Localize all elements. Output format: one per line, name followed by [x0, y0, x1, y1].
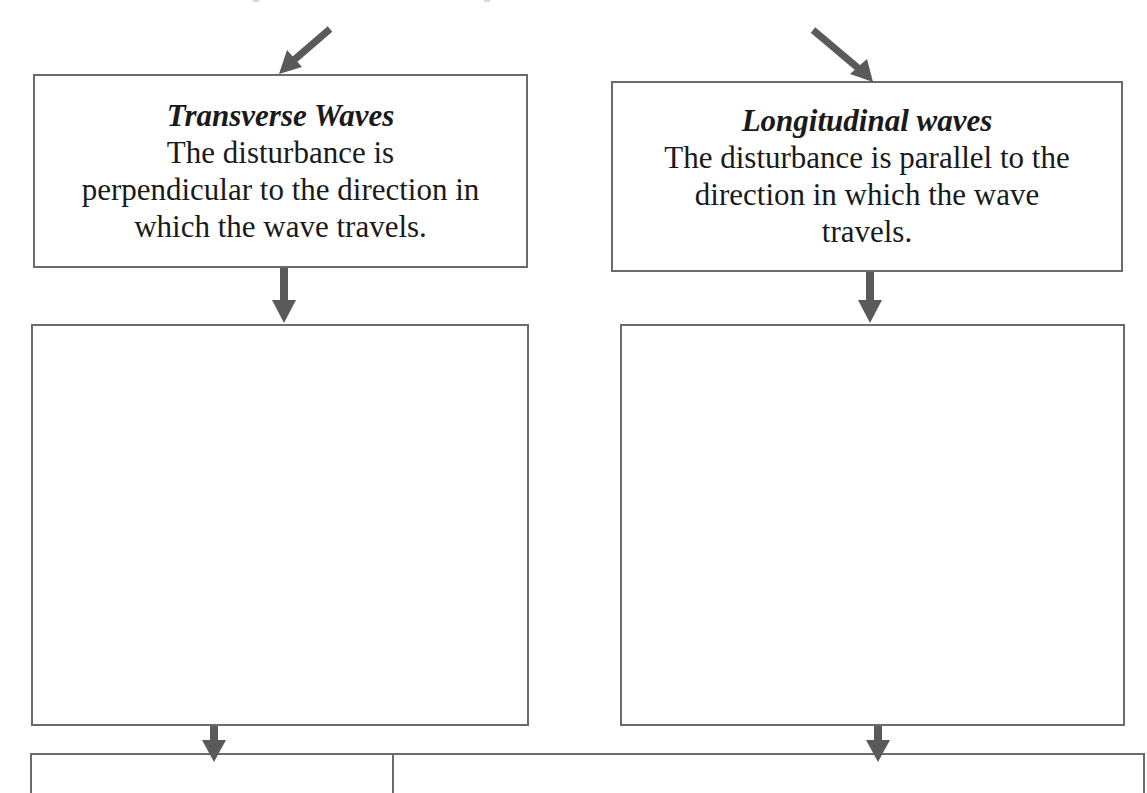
- bottom-table-cell-right[interactable]: [394, 755, 1143, 793]
- clipped-text-fragment: [253, 0, 259, 2]
- transverse-waves-line-1: The disturbance is: [167, 134, 394, 171]
- arrow-down-icon: [858, 272, 882, 323]
- bottom-table-cell-left[interactable]: [32, 755, 394, 793]
- transverse-waves-title: Transverse Waves: [167, 98, 395, 134]
- longitudinal-waves-line-3: travels.: [822, 213, 912, 250]
- arrow-down-right-icon: [813, 30, 873, 82]
- longitudinal-waves-title: Longitudinal waves: [742, 103, 993, 139]
- transverse-answer-box[interactable]: [31, 324, 529, 726]
- longitudinal-waves-box: Longitudinal waves The disturbance is pa…: [611, 81, 1123, 272]
- longitudinal-answer-box[interactable]: [620, 324, 1125, 726]
- bottom-comparison-table: [30, 753, 1145, 793]
- transverse-waves-line-2: perpendicular to the direction in: [82, 171, 480, 208]
- transverse-waves-box: Transverse Waves The disturbance is perp…: [33, 74, 528, 268]
- longitudinal-waves-line-1: The disturbance is parallel to the: [664, 139, 1069, 176]
- clipped-text-fragment: [484, 0, 490, 2]
- transverse-waves-line-3: which the wave travels.: [134, 208, 427, 245]
- arrow-down-left-icon: [279, 29, 330, 74]
- arrow-down-icon: [272, 268, 296, 323]
- longitudinal-waves-line-2: direction in which the wave: [695, 176, 1039, 213]
